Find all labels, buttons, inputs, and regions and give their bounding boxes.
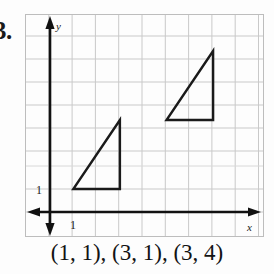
graph-svg: y x 1 1 <box>25 14 264 237</box>
graph-background <box>25 14 264 237</box>
figure-root: 3. <box>0 0 274 274</box>
y-axis-label: y <box>55 20 61 32</box>
y-axis-tick-1: 1 <box>36 183 42 197</box>
x-axis-label: x <box>246 221 252 233</box>
coordinate-graph: y x 1 1 <box>25 14 264 237</box>
coordinates-caption: (1, 1), (3, 1), (3, 4) <box>0 240 274 265</box>
x-axis-tick-1: 1 <box>70 218 76 232</box>
exercise-number: 3. <box>0 18 12 43</box>
